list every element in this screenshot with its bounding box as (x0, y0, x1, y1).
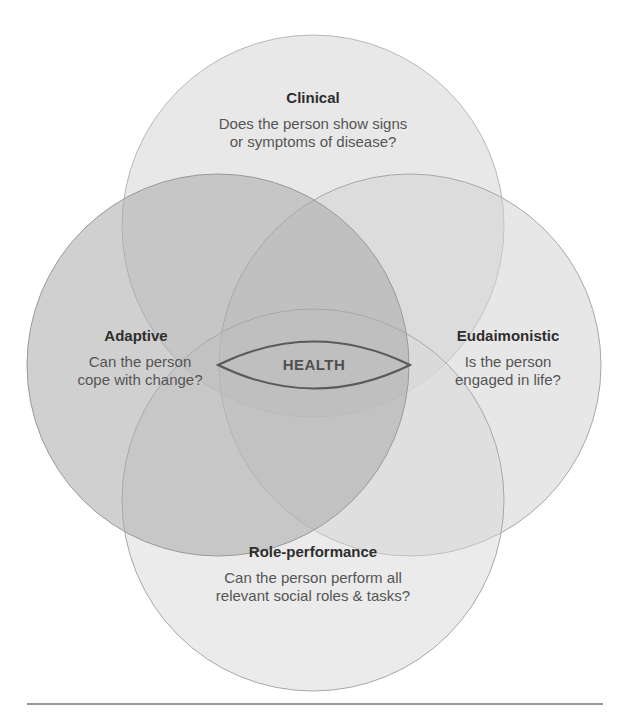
label-clinical: Clinical Does the person show signs or s… (163, 89, 463, 151)
set-title-adaptive: Adaptive (32, 327, 240, 345)
set-question-adaptive-line1: Can the person (40, 353, 240, 371)
label-eudaimonistic: Eudaimonistic Is the person engaged in l… (418, 327, 598, 389)
set-question-eudaimonistic-line1: Is the person (418, 353, 598, 371)
set-title-clinical: Clinical (163, 89, 463, 107)
set-question-eudaimonistic-line2: engaged in life? (418, 371, 598, 389)
label-adaptive: Adaptive Can the person cope with change… (40, 327, 240, 389)
label-role-performance: Role-performance Can the person perform … (163, 543, 463, 605)
set-question-clinical-line1: Does the person show signs (163, 115, 463, 133)
bottom-divider-rule (27, 703, 603, 705)
health-center-label: HEALTH (244, 356, 384, 373)
set-question-role-performance-line1: Can the person perform all (163, 569, 463, 587)
set-question-adaptive-line2: cope with change? (40, 371, 240, 389)
set-question-clinical-line2: or symptoms of disease? (163, 133, 463, 151)
set-question-role-performance-line2: relevant social roles & tasks? (163, 587, 463, 605)
set-title-role-performance: Role-performance (163, 543, 463, 561)
set-title-eudaimonistic: Eudaimonistic (418, 327, 598, 345)
